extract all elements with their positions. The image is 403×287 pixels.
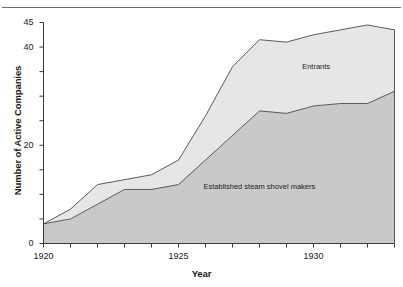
header-rule bbox=[2, 7, 401, 8]
y-tick-label: 40 bbox=[8, 43, 34, 52]
figure-container: Number of Active Companies Year 0204045 … bbox=[0, 0, 403, 287]
series-annotation: Entrants bbox=[302, 62, 330, 71]
x-tick-label: 1930 bbox=[294, 252, 334, 261]
x-axis-title: Year bbox=[0, 268, 403, 279]
page-header-fragment bbox=[288, 0, 400, 6]
series-annotation: Established steam shovel makers bbox=[204, 182, 316, 191]
x-tick-label: 1925 bbox=[159, 252, 199, 261]
y-tick-label: 20 bbox=[8, 141, 34, 150]
area-chart-plot bbox=[0, 0, 403, 287]
x-tick-label: 1920 bbox=[24, 252, 64, 261]
y-axis-title: Number of Active Companies bbox=[12, 51, 23, 211]
y-tick-label: 0 bbox=[8, 239, 34, 248]
y-tick-label: 45 bbox=[8, 18, 34, 27]
